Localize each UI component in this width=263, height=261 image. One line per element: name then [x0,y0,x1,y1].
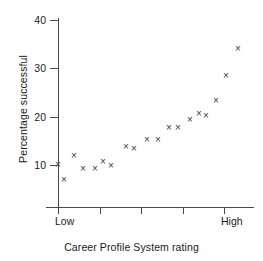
data-point-marker [61,176,68,183]
data-point-marker [196,110,203,117]
data-point-marker [123,143,130,150]
y-axis-tick-label-wrap: 10 [18,160,46,171]
data-point-marker [223,72,230,79]
x-axis-tick-mark [141,207,142,214]
y-axis-tick-label: 30 [20,63,46,74]
y-axis-tick-label: 10 [20,160,46,171]
y-axis-tick-mark [50,117,58,118]
data-point-marker [166,124,173,131]
y-axis-tick-label: 40 [20,15,46,26]
data-point-marker [71,152,78,159]
y-axis-tick-label-wrap: 20 [18,112,46,123]
data-point-marker [131,145,138,152]
data-point-marker [100,158,107,165]
data-point-marker [213,97,220,104]
y-axis-tick-label-wrap: 30 [18,63,46,74]
y-axis-tick-label-wrap: 40 [18,15,46,26]
data-point-marker [203,112,210,119]
data-point-marker [187,116,194,123]
x-axis-tick-mark [58,207,59,214]
data-point-marker [108,162,115,169]
y-axis-line [58,18,59,208]
scatter-chart-figure: Percentage successful 40302010 LowHigh C… [0,0,263,261]
y-axis-tick-mark [50,165,58,166]
x-axis-tick-label: Low [55,216,74,227]
y-axis-tick-mark [50,20,58,21]
y-axis-tick-label: 20 [20,112,46,123]
x-axis-label: Career Profile System rating [0,241,263,253]
data-point-marker [144,136,151,143]
data-point-marker [175,124,182,131]
x-axis-tick-mark [100,207,101,214]
data-point-marker [80,165,87,172]
y-axis-tick-mark [50,68,58,69]
data-point-marker [155,136,162,143]
x-axis-tick-label: High [221,216,243,227]
data-point-marker [235,45,242,52]
data-point-marker [92,165,99,172]
x-axis-line [46,207,254,208]
x-axis-tick-mark [224,207,225,214]
x-axis-tick-mark [183,207,184,214]
